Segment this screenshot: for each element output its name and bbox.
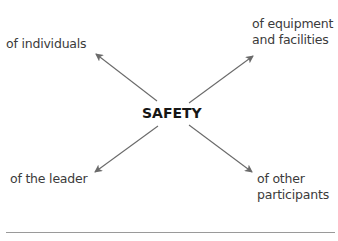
node-equipment-facilities: of equipment and facilities: [252, 16, 333, 48]
node-equipment-line-2: and facilities: [252, 32, 333, 48]
safety-diagram: of individuals of equipment and faciliti…: [0, 0, 338, 241]
arrow-to-leader: [95, 126, 158, 172]
node-participants-line-2: participants: [257, 187, 329, 203]
arrow-to-equipment: [189, 56, 253, 103]
arrow-to-individuals: [96, 54, 157, 101]
node-individuals-line-1: of individuals: [6, 36, 86, 52]
node-leader: of the leader: [10, 171, 88, 187]
arrow-to-participants: [189, 125, 252, 172]
node-participants-line-1: of other: [257, 171, 329, 187]
node-individuals: of individuals: [6, 36, 86, 52]
node-leader-line-1: of the leader: [10, 171, 88, 187]
node-other-participants: of other participants: [257, 171, 329, 203]
node-equipment-line-1: of equipment: [252, 16, 333, 32]
horizontal-rule-divider: [6, 232, 335, 233]
center-label-safety: SAFETY: [142, 105, 202, 121]
